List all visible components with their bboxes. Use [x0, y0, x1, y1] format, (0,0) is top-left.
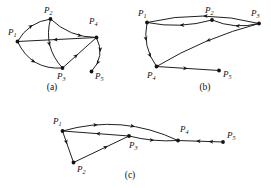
node-layer: P1P2P3P4P5: [52, 116, 236, 175]
arrowhead-P2-to-P3: [103, 144, 109, 150]
edge-P1-to-P2: [63, 131, 74, 163]
panel-caption-a: (a): [47, 82, 58, 93]
node-label-P3: P3: [128, 140, 138, 151]
arrowhead-P1-to-P4: [147, 53, 153, 59]
node-P3[interactable]: [257, 22, 261, 26]
node-P5[interactable]: [217, 69, 221, 73]
node-P1[interactable]: [145, 21, 149, 25]
panel-caption-b: (b): [199, 82, 210, 93]
node-P2[interactable]: [72, 161, 76, 165]
panel-c: P1P2P3P4P5(c): [52, 116, 236, 181]
node-label-P3: P3: [56, 71, 66, 82]
node-P5[interactable]: [221, 140, 225, 144]
node-label-P5: P5: [94, 71, 104, 82]
node-P5[interactable]: [90, 70, 94, 74]
panel-b: P1P2P3P4P5(b): [137, 5, 261, 93]
node-P4[interactable]: [95, 36, 99, 40]
node-label-P2: P2: [204, 5, 214, 16]
graph-layers: P1P2P3P4P5(a)P1P2P3P4P5(b)P1P2P3P4P5(c): [7, 5, 261, 181]
node-label-P1: P1: [137, 8, 147, 19]
node-P3[interactable]: [127, 134, 131, 138]
node-label-P1: P1: [7, 27, 17, 38]
edge-P3-to-P4: [63, 38, 97, 69]
node-label-P2: P2: [76, 164, 86, 175]
node-P4[interactable]: [155, 65, 159, 69]
node-P2[interactable]: [210, 18, 214, 22]
panel-caption-c: (c): [125, 170, 136, 181]
edge-layer: [18, 19, 103, 72]
edge-P2-to-P3: [74, 136, 130, 163]
figure-root: P1P2P3P4P5(a)P1P2P3P4P5(b)P1P2P3P4P5(c): [0, 0, 271, 188]
edge-P1-to-P2: [18, 19, 51, 42]
arrowhead-P3-to-P4: [205, 38, 211, 43]
edge-P5-to-P4: [178, 141, 223, 143]
edge-P1-to-P3: [18, 42, 63, 69]
node-label-P2: P2: [43, 5, 53, 16]
node-label-P5: P5: [226, 130, 236, 141]
edge-layer: [63, 123, 224, 163]
panel-a: P1P2P3P4P5(a): [7, 5, 104, 93]
node-label-P5: P5: [222, 69, 232, 80]
node-P1[interactable]: [61, 129, 65, 133]
edge-P2-to-P3: [48, 19, 62, 68]
node-label-P4: P4: [179, 124, 189, 135]
node-label-P4: P4: [88, 16, 98, 27]
node-label-P1: P1: [52, 116, 62, 127]
node-P2[interactable]: [49, 17, 53, 21]
edge-P3-to-P1: [63, 131, 130, 136]
edge-P3-to-P4: [157, 24, 260, 67]
edge-P1-to-P4: [146, 23, 157, 67]
arrowhead-P1-to-P2: [64, 139, 69, 145]
node-label-P4: P4: [146, 70, 156, 81]
graph-figure-svg: P1P2P3P4P5(a)P1P2P3P4P5(b)P1P2P3P4P5(c): [0, 0, 271, 188]
edge-P4-to-P5: [92, 38, 101, 72]
node-label-P3: P3: [250, 8, 260, 19]
arrowhead-P4-to-P5: [95, 60, 101, 66]
node-P3[interactable]: [61, 66, 65, 70]
edge-layer: [144, 14, 259, 70]
node-P1[interactable]: [16, 40, 20, 44]
node-P4[interactable]: [176, 139, 180, 143]
